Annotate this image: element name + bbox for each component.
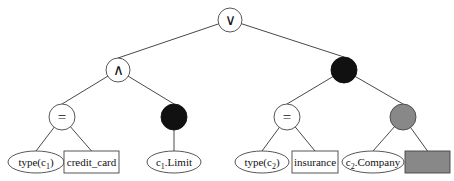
tree-edges: [36, 20, 428, 151]
leaf-credit-card: credit_card: [64, 151, 119, 173]
node-label: ∧: [113, 62, 124, 78]
edge-root-to-and: [118, 20, 230, 58]
node-circle: [390, 104, 416, 130]
leaf-insurance: insurance: [292, 151, 338, 173]
edge-root-to-black-right: [230, 20, 344, 57]
expression-tree-diagram: ∨∧== type(c1)credit_cardc1.Limittype(c2)…: [0, 0, 454, 181]
node-eq-left: =: [49, 104, 75, 130]
node-eq-right: =: [274, 104, 300, 130]
node-label: ∨: [225, 12, 236, 28]
node-label: =: [58, 109, 66, 125]
leaf-type-c1: type(c1): [8, 151, 64, 173]
leaf-rect: [405, 151, 450, 173]
tree-leaves: type(c1)credit_cardc1.Limittype(c2)insur…: [8, 151, 450, 173]
leaf-gray-box: [405, 151, 450, 173]
leaf-type-c2: type(c2): [235, 151, 289, 173]
leaf-label: credit_card: [67, 156, 117, 168]
node-black-right: [331, 57, 357, 83]
node-and: ∧: [106, 58, 130, 82]
node-label: =: [283, 109, 291, 125]
leaf-c2-company: c2.Company: [342, 151, 404, 173]
node-circle: [161, 104, 187, 130]
node-circle: [331, 57, 357, 83]
tree-nodes: ∨∧==: [49, 8, 416, 130]
node-root: ∨: [218, 8, 242, 32]
node-black-left: [161, 104, 187, 130]
leaf-label: insurance: [294, 156, 336, 168]
node-gray-right: [390, 104, 416, 130]
leaf-c1-limit: c1.Limit: [147, 151, 201, 173]
